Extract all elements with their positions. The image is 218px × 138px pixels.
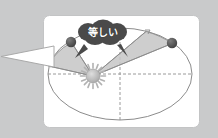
sun-icon (86, 69, 100, 83)
diagram-stage: 等しい (0, 0, 218, 138)
figure-root: 等しい (0, 0, 218, 138)
planet-start-icon (66, 37, 76, 47)
diagram-svg (0, 0, 218, 138)
planet-end-icon (167, 38, 177, 48)
